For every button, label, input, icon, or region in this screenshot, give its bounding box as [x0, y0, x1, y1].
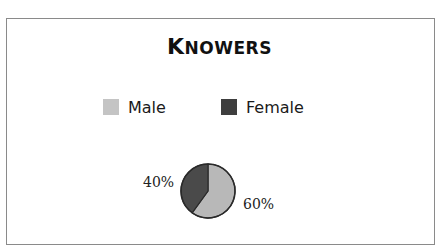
pie-label-male: 60%	[243, 196, 274, 212]
pie-label-female: 40%	[143, 174, 174, 190]
pie-chart	[0, 0, 439, 252]
